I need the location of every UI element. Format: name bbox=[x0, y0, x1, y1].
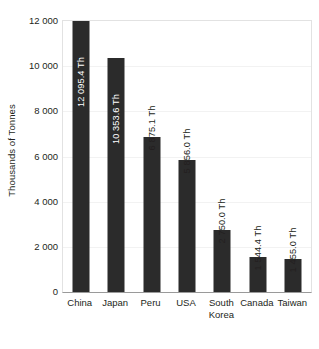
x-axis-category-label-line: Japan bbox=[97, 297, 132, 309]
bar-value-label: 6 875.1 Th bbox=[146, 97, 158, 159]
y-axis-tick: 4 000 bbox=[34, 195, 58, 206]
x-axis-category-label: SouthKorea bbox=[204, 297, 239, 320]
x-axis-category-label: Japan bbox=[97, 297, 132, 309]
bar-value-label: 5 856.0 Th bbox=[181, 120, 193, 182]
bar[interactable] bbox=[143, 137, 160, 292]
x-axis-category-label: USA bbox=[168, 297, 203, 309]
bar-value-label: 12 095.4 Th bbox=[75, 51, 87, 113]
x-axis-category-label: Canada bbox=[239, 297, 274, 309]
bars-layer: 12 095.4 Th10 353.6 Th6 875.1 Th5 856.0 … bbox=[63, 21, 311, 292]
bar-slot: 1 544.4 Th bbox=[240, 21, 275, 292]
bar-value-label: 2 750.0 Th bbox=[216, 190, 228, 252]
x-axis-category-label: Taiwan bbox=[275, 297, 310, 309]
x-axis-category-labels: ChinaJapanPeruUSASouthKoreaCanadaTaiwan bbox=[62, 297, 312, 337]
y-axis-tick: 8 000 bbox=[34, 105, 58, 116]
y-axis-tick: 10 000 bbox=[29, 60, 58, 71]
y-axis-tick: 0 bbox=[53, 286, 58, 297]
x-axis-category-label: Peru bbox=[133, 297, 168, 309]
bar-value-label: 1 455.0 Th bbox=[287, 219, 299, 281]
bar-slot: 2 750.0 Th bbox=[205, 21, 240, 292]
y-axis-title-label: Thousands of Tonnes bbox=[6, 104, 17, 197]
x-axis-category-label-line: Peru bbox=[133, 297, 168, 309]
x-axis-category-label: China bbox=[62, 297, 97, 309]
bar-value-label: 10 353.6 Th bbox=[110, 88, 122, 150]
x-axis-category-label-line: Korea bbox=[204, 309, 239, 321]
y-axis-tick: 6 000 bbox=[34, 150, 58, 161]
x-axis-category-label-line: Canada bbox=[239, 297, 274, 309]
bar-value-label: 1 544.4 Th bbox=[252, 217, 264, 279]
plot-area: 12 095.4 Th10 353.6 Th6 875.1 Th5 856.0 … bbox=[62, 20, 312, 293]
bar-slot: 1 455.0 Th bbox=[276, 21, 311, 292]
bar-slot: 5 856.0 Th bbox=[169, 21, 204, 292]
x-axis-category-label-line: South bbox=[204, 297, 239, 309]
bar-chart-figure: Thousands of Tonnes 12 00010 0008 0006 0… bbox=[0, 0, 319, 349]
x-axis-category-label-line: USA bbox=[168, 297, 203, 309]
y-axis-tick: 12 000 bbox=[29, 15, 58, 26]
y-axis-tick: 2 000 bbox=[34, 240, 58, 251]
bar-slot: 10 353.6 Th bbox=[98, 21, 133, 292]
x-axis-category-label-line: China bbox=[62, 297, 97, 309]
bar-slot: 12 095.4 Th bbox=[63, 21, 98, 292]
y-axis-tick-labels: 12 00010 0008 0006 0004 0002 0000 bbox=[18, 20, 62, 291]
x-axis-category-label-line: Taiwan bbox=[275, 297, 310, 309]
bar-slot: 6 875.1 Th bbox=[134, 21, 169, 292]
